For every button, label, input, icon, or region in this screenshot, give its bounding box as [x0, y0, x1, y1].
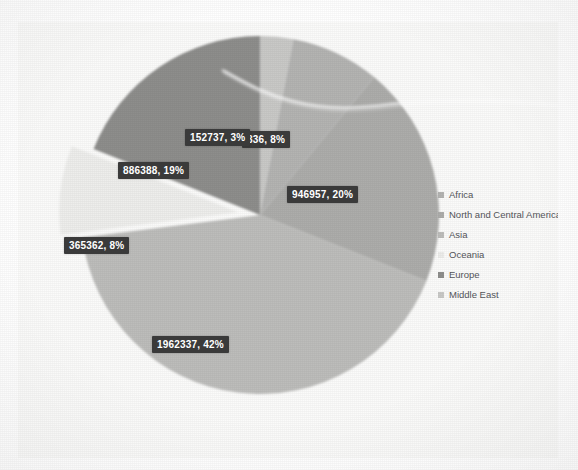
data-label-middle-east: 152737, 3%	[185, 129, 250, 146]
legend-item-north-and-central-america[interactable]: North and Central America	[438, 205, 558, 224]
legend-item-africa[interactable]: Africa	[438, 185, 558, 204]
data-label-asia: 1962337, 42%	[152, 336, 229, 353]
legend-label: Middle East	[449, 289, 499, 300]
legend-item-asia[interactable]: Asia	[438, 225, 558, 244]
legend-label: Asia	[449, 229, 467, 240]
photo-frame: 152737, 3% 836, 8% 946957, 20% 1962337, …	[0, 0, 578, 470]
legend-item-middle-east[interactable]: Middle East	[438, 285, 558, 304]
legend-item-europe[interactable]: Europe	[438, 265, 558, 284]
chart-legend: Africa North and Central America Asia Oc…	[438, 185, 558, 305]
legend-swatch-icon	[438, 232, 444, 238]
legend-swatch-icon	[438, 252, 444, 258]
data-label-europe: 886388, 19%	[118, 162, 189, 179]
legend-label: Oceania	[449, 249, 484, 260]
legend-label: Africa	[449, 189, 473, 200]
legend-label: North and Central America	[449, 209, 558, 220]
chart-panel: 152737, 3% 836, 8% 946957, 20% 1962337, …	[18, 22, 558, 458]
legend-swatch-icon	[438, 212, 444, 218]
legend-swatch-icon	[438, 272, 444, 278]
legend-swatch-icon	[438, 192, 444, 198]
legend-label: Europe	[449, 269, 480, 280]
legend-item-oceania[interactable]: Oceania	[438, 245, 558, 264]
data-label-oceania: 365362, 8%	[64, 237, 129, 254]
data-label-north-and-central-america: 946957, 20%	[287, 186, 358, 203]
legend-swatch-icon	[438, 292, 444, 298]
